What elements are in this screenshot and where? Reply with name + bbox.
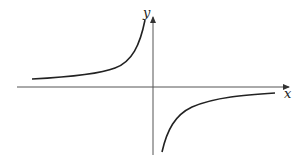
curve-right-branch [162, 93, 275, 152]
y-axis-label: y [142, 5, 151, 20]
x-axis-label: x [284, 86, 292, 101]
curve-left-branch [32, 20, 145, 79]
graph: y x [0, 0, 303, 165]
